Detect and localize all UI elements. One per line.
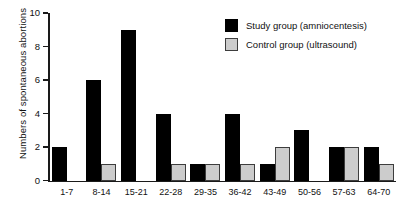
bar-group <box>119 13 154 181</box>
bar-group <box>153 13 188 181</box>
y-tick: 8 <box>43 46 48 48</box>
bar-group <box>50 13 85 181</box>
y-tick-label: 4 <box>35 109 40 119</box>
x-tick-label: 15-21 <box>119 187 154 197</box>
legend-swatch-study-icon <box>225 19 238 32</box>
chart-legend: Study group (amniocentesis) Control grou… <box>225 19 367 57</box>
bar-study <box>190 164 205 181</box>
x-axis-labels: 1-78-1415-2122-2829-3536-4243-4950-5657-… <box>50 187 397 197</box>
bar-study <box>156 114 171 181</box>
x-tick-label: 64-70 <box>361 187 396 197</box>
bar-study <box>121 30 136 181</box>
x-tick-label: 57-63 <box>327 187 362 197</box>
x-axis-line <box>48 181 396 183</box>
bar-control <box>275 147 290 181</box>
y-tick-label: 8 <box>35 42 40 52</box>
bar-group <box>188 13 223 181</box>
x-tick-label: 22-28 <box>153 187 188 197</box>
x-tick-label: 1-7 <box>50 187 85 197</box>
bar-study <box>294 130 309 180</box>
bar-study <box>329 147 344 181</box>
x-tick-label: 8-14 <box>84 187 119 197</box>
y-tick-label: 6 <box>35 75 40 85</box>
legend-item-control: Control group (ultrasound) <box>225 38 367 51</box>
y-axis-title: Numbers of spontaneous abortions <box>17 0 28 174</box>
bar-control <box>344 147 359 181</box>
bar-group <box>84 13 119 181</box>
bar-control <box>240 164 255 181</box>
bar-control <box>171 164 186 181</box>
legend-item-study: Study group (amniocentesis) <box>225 19 367 32</box>
x-tick-label: 29-35 <box>188 187 223 197</box>
bar-study <box>52 147 67 181</box>
bar-study <box>364 147 379 181</box>
y-tick-label: 2 <box>35 142 40 152</box>
x-tick-label: 50-56 <box>292 187 327 197</box>
y-tick: 2 <box>43 146 48 148</box>
bar-control <box>205 164 220 181</box>
y-tick: 6 <box>43 79 48 81</box>
y-tick: 0 <box>43 180 48 182</box>
bar-control <box>379 164 394 181</box>
x-tick-label: 43-49 <box>257 187 292 197</box>
bar-study <box>260 164 275 181</box>
y-tick: 4 <box>43 113 48 115</box>
legend-label-control: Control group (ultrasound) <box>246 39 357 50</box>
bar-study <box>225 114 240 181</box>
bar-study <box>86 80 101 181</box>
y-tick-label: 10 <box>29 8 40 18</box>
x-tick-label: 36-42 <box>223 187 258 197</box>
legend-label-study: Study group (amniocentesis) <box>246 20 367 31</box>
legend-swatch-control-icon <box>225 38 238 51</box>
bar-chart: Numbers of spontaneous abortions 0246810… <box>0 0 400 224</box>
y-tick-label: 0 <box>35 176 40 186</box>
y-tick: 10 <box>43 12 48 14</box>
bar-control <box>101 164 116 181</box>
